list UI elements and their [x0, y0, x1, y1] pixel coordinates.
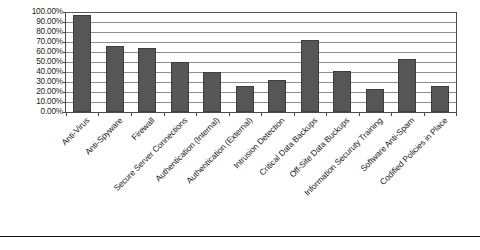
x-axis-category-label: Anti-Virus [60, 116, 91, 147]
bar-slot [326, 12, 358, 112]
y-axis-tick-label: 70.00% [36, 38, 63, 46]
x-axis-category-label: Critical Data Backups [258, 116, 319, 177]
bar[interactable] [203, 72, 221, 112]
y-axis-tick-label: 100.00% [32, 8, 63, 16]
y-axis-tick-label: 80.00% [36, 28, 63, 36]
bar[interactable] [171, 62, 189, 112]
bar-chart: 100.00%90.00%80.00%70.00%60.00%50.00%40.… [0, 0, 480, 250]
x-axis-category-label: Off-Site Data Buckups [288, 116, 351, 179]
bar[interactable] [333, 71, 351, 112]
y-axis-tick-label: 0.00% [41, 108, 63, 116]
bar[interactable] [301, 40, 319, 112]
bar-slot [196, 12, 228, 112]
bar-slot [261, 12, 293, 112]
x-axis-category-label: Firewall [130, 116, 156, 142]
bar-slot [294, 12, 326, 112]
bar-series [66, 12, 456, 112]
y-axis-tick-label: 50.00% [36, 58, 63, 66]
x-axis-tick-mark [456, 112, 457, 116]
x-axis-category-label: Authentication (Internal) [154, 116, 221, 183]
x-axis-category-label: Codified Policies in Place [378, 116, 449, 187]
bar-slot [98, 12, 130, 112]
bar[interactable] [268, 80, 286, 112]
y-axis-tick-label: 60.00% [36, 48, 63, 56]
y-axis-tick-label: 20.00% [36, 88, 63, 96]
bar-slot [359, 12, 391, 112]
bar-slot [391, 12, 423, 112]
footer-divider [0, 236, 480, 237]
bar-slot [229, 12, 261, 112]
bar[interactable] [73, 15, 91, 112]
bar-slot [66, 12, 98, 112]
bar[interactable] [398, 59, 416, 112]
bar[interactable] [236, 86, 254, 112]
plot-area [65, 12, 457, 113]
bar-slot [164, 12, 196, 112]
bar-slot [424, 12, 456, 112]
y-axis-tick-label: 40.00% [36, 68, 63, 76]
y-axis-tick-label: 90.00% [36, 18, 63, 26]
bar[interactable] [106, 46, 124, 112]
bar[interactable] [366, 89, 384, 112]
y-axis-tick-label: 30.00% [36, 78, 63, 86]
x-axis-category-labels: Anti-VirusAnti-SpywareFirewallSecure Ser… [65, 116, 455, 204]
y-axis-tick-labels: 100.00%90.00%80.00%70.00%60.00%50.00%40.… [8, 8, 63, 116]
bar[interactable] [431, 86, 449, 112]
y-axis-tick-label: 10.00% [36, 98, 63, 106]
bar[interactable] [138, 48, 156, 112]
chart-figure: 100.00%90.00%80.00%70.00%60.00%50.00%40.… [0, 0, 480, 250]
bar-slot [131, 12, 163, 112]
